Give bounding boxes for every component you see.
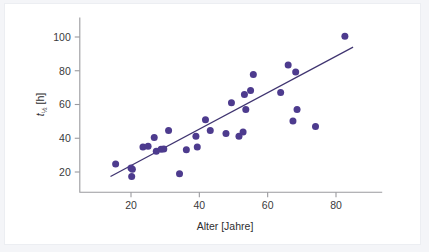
y-axis-title: t½ [h] <box>34 93 48 116</box>
data-point <box>341 33 348 40</box>
data-point <box>183 146 190 153</box>
data-point <box>240 129 247 136</box>
x-tick-label: 20 <box>125 199 137 211</box>
data-point <box>145 143 152 150</box>
y-axis-ticks: 20406080100 <box>53 31 80 178</box>
data-point <box>241 91 248 98</box>
y-axis-title-rotated: t½ [h] <box>34 93 48 116</box>
data-point <box>194 144 201 151</box>
y-tick-label: 20 <box>59 166 71 178</box>
figure-container: 20406080 20406080100 Alter [Jahre] t½ [h… <box>0 0 429 252</box>
scatter-plot: 20406080 20406080100 Alter [Jahre] t½ [h… <box>5 4 420 244</box>
data-point <box>289 118 296 125</box>
data-point <box>277 89 284 96</box>
data-point <box>247 87 254 94</box>
data-points-group <box>112 33 348 180</box>
data-point <box>160 146 167 153</box>
data-point <box>250 71 257 78</box>
data-point <box>207 127 214 134</box>
regression-line <box>111 47 354 176</box>
y-axis-title-group: t½ [h] <box>34 93 48 116</box>
data-point <box>192 133 199 140</box>
data-point <box>176 170 183 177</box>
x-axis-title-group: Alter [Jahre] <box>197 220 254 232</box>
y-tick-label: 60 <box>59 98 71 110</box>
data-point <box>151 134 158 141</box>
y-tick-label: 40 <box>59 132 71 144</box>
regression-line-group <box>111 47 354 176</box>
data-point <box>112 161 119 168</box>
x-axis-title: Alter [Jahre] <box>197 220 254 232</box>
y-tick-label: 80 <box>59 65 71 77</box>
data-point <box>312 123 319 130</box>
y-tick-label: 100 <box>53 31 71 43</box>
x-tick-label: 40 <box>193 199 205 211</box>
data-point <box>165 127 172 134</box>
data-point <box>222 130 229 137</box>
data-point <box>129 166 136 173</box>
data-point <box>242 106 249 113</box>
data-point <box>128 173 135 180</box>
data-point <box>294 106 301 113</box>
data-point <box>228 99 235 106</box>
x-tick-label: 60 <box>262 199 274 211</box>
y-axis-title-unit: [h] <box>34 93 46 108</box>
x-axis-ticks: 20406080 <box>125 192 342 211</box>
chart-canvas: 20406080 20406080100 Alter [Jahre] t½ [h… <box>5 4 420 244</box>
x-tick-label: 80 <box>330 199 342 211</box>
data-point <box>292 69 299 76</box>
data-point <box>202 116 209 123</box>
data-point <box>285 62 292 69</box>
